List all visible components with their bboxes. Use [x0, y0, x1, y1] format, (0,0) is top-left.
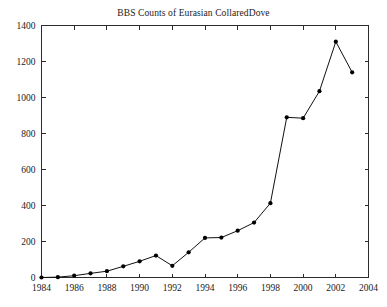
- x-tick-label: 1994: [196, 283, 215, 293]
- data-point-marker: [334, 40, 338, 44]
- x-tick-label: 2002: [326, 283, 345, 293]
- x-tick-label: 1998: [261, 283, 280, 293]
- y-tick-label: 1400: [17, 21, 36, 31]
- data-point-marker: [88, 271, 92, 275]
- x-tick-label: 1986: [65, 283, 84, 293]
- y-tick-label: 1000: [17, 93, 36, 103]
- data-point-marker: [285, 115, 289, 119]
- data-series-group: [39, 40, 354, 280]
- y-tick-label: 400: [21, 201, 36, 211]
- y-tick-label: 800: [21, 129, 36, 139]
- x-tick-label: 2004: [359, 283, 378, 293]
- x-tick-label: 2000: [294, 283, 313, 293]
- series-line: [42, 42, 353, 278]
- x-tick-label: 1988: [97, 283, 116, 293]
- x-axis-ticks: 1984198619881990199219941996199820002002…: [32, 26, 378, 293]
- data-point-marker: [268, 201, 272, 205]
- data-point-marker: [121, 264, 125, 268]
- data-point-marker: [350, 70, 354, 74]
- data-point-marker: [170, 264, 174, 268]
- x-tick-label: 1996: [228, 283, 247, 293]
- y-tick-label: 200: [21, 237, 36, 247]
- y-tick-label: 600: [21, 165, 36, 175]
- x-tick-label: 1984: [32, 283, 51, 293]
- data-point-marker: [39, 275, 43, 279]
- chart-figure: BBS Counts of Eurasian CollaredDove 0200…: [0, 0, 387, 307]
- x-tick-label: 1990: [130, 283, 149, 293]
- y-axis-ticks: 0200400600800100012001400: [17, 21, 369, 283]
- data-point-marker: [72, 274, 76, 278]
- x-tick-label: 1992: [163, 283, 182, 293]
- data-point-marker: [138, 259, 142, 263]
- data-point-marker: [219, 235, 223, 239]
- data-point-marker: [187, 250, 191, 254]
- line-chart-plot: 0200400600800100012001400 19841986198819…: [0, 0, 387, 307]
- data-point-marker: [105, 269, 109, 273]
- data-point-marker: [317, 89, 321, 93]
- data-point-marker: [154, 253, 158, 257]
- data-point-marker: [203, 236, 207, 240]
- data-point-marker: [301, 116, 305, 120]
- y-tick-label: 0: [31, 273, 36, 283]
- data-point-marker: [236, 229, 240, 233]
- data-point-marker: [56, 275, 60, 279]
- data-point-marker: [252, 221, 256, 225]
- y-tick-label: 1200: [17, 57, 36, 67]
